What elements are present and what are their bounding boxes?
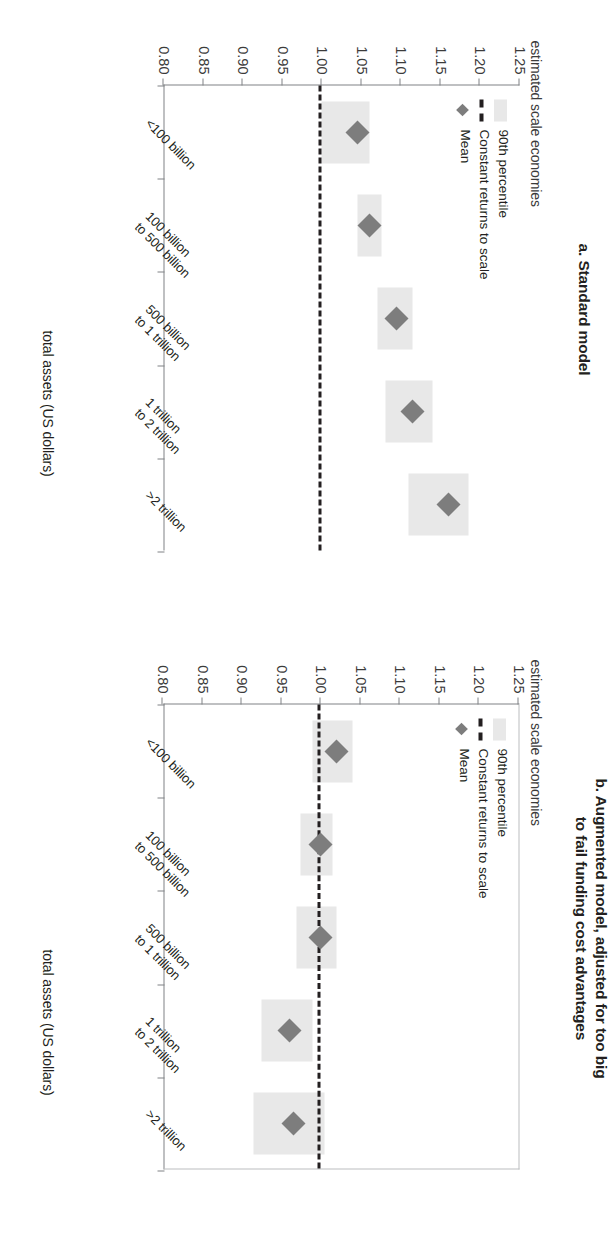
value-axis-tick	[478, 78, 479, 85]
category-axis-label: >2 trillion	[142, 1107, 189, 1154]
value-axis-tick	[439, 78, 440, 85]
value-axis-tick-label: 1.00	[312, 665, 328, 693]
category-axis-tick	[157, 551, 164, 552]
panel-a-title: a. Standard model	[573, 0, 593, 618]
legend-dashed-line-swatch	[479, 99, 483, 121]
legend-label-mean: Mean	[456, 748, 471, 782]
category-axis-label: 500 billionto 1 trillion	[131, 921, 193, 983]
value-axis-tick	[398, 697, 399, 704]
category-axis-label: >2 trillion	[142, 488, 189, 535]
value-axis-tick	[518, 78, 519, 85]
category-axis-tick	[157, 458, 164, 459]
panel-b-category-axis-title: total assets (US dollars)	[39, 949, 55, 1095]
value-axis-tick	[477, 697, 478, 704]
category-axis-tick	[157, 271, 164, 272]
category-axis-label: <100 billion	[142, 116, 198, 172]
category-axis-label: <100 billion	[142, 735, 198, 791]
legend-band-swatch	[494, 99, 507, 121]
category-axis-label: 1 trillionto 2 trillion	[131, 395, 193, 457]
value-axis-tick	[280, 697, 281, 704]
category-axis-tick	[157, 890, 164, 891]
value-axis-tick	[281, 78, 282, 85]
value-axis-tick	[399, 78, 400, 85]
value-axis-tick-label: 0.90	[233, 665, 249, 693]
value-axis-tick-label: 1.10	[391, 665, 407, 693]
value-axis-tick-label: 0.80	[155, 46, 171, 74]
value-axis-tick	[319, 697, 320, 704]
category-axis-tick	[157, 1077, 164, 1078]
category-axis-label: 1 trillionto 2 trillion	[131, 1014, 193, 1076]
panel-a-category-axis-title: total assets (US dollars)	[39, 330, 55, 476]
value-axis-tick-label: 1.25	[511, 46, 527, 74]
value-axis-tick-label: 0.85	[194, 665, 210, 693]
category-axis-tick	[157, 984, 164, 985]
category-axis-tick	[157, 1170, 164, 1171]
value-axis-tick-label: 1.25	[510, 665, 526, 693]
figure-stage: a. Standard model estimated scale econom…	[0, 0, 615, 1237]
value-axis-tick	[240, 697, 241, 704]
value-axis-tick	[359, 697, 360, 704]
value-axis-tick-label: 0.95	[273, 665, 289, 693]
legend-label-constant-returns: Constant returns to scale	[475, 748, 490, 898]
value-axis-tick	[162, 78, 163, 85]
legend-diamond-swatch	[456, 103, 469, 116]
value-axis-tick	[360, 78, 361, 85]
panel-b-title: b. Augmented model, adjusted for too big…	[570, 619, 610, 1237]
value-axis-tick	[161, 697, 162, 704]
value-axis-tick-label: 0.90	[234, 46, 250, 74]
value-axis-tick	[241, 78, 242, 85]
value-axis-tick-label: 0.85	[195, 46, 211, 74]
panel-b-plot-area: 1.251.201.151.101.051.000.950.900.850.80…	[163, 703, 519, 1169]
legend-dashed-line-swatch	[478, 718, 482, 740]
constant-returns-to-scale-line	[318, 85, 321, 550]
legend-label-90th-percentile: 90th percentile	[494, 748, 509, 837]
legend-label-mean: Mean	[457, 129, 472, 163]
value-axis-tick-label: 1.20	[470, 665, 486, 693]
value-axis-tick-label: 1.20	[471, 46, 487, 74]
value-axis-tick	[517, 697, 518, 704]
value-axis-tick	[438, 697, 439, 704]
panel-a-standard-model: a. Standard model estimated scale econom…	[0, 0, 615, 618]
legend-label-constant-returns: Constant returns to scale	[476, 129, 491, 279]
category-axis-label: 100 billionto 500 billion	[131, 209, 202, 280]
category-axis-tick	[157, 704, 164, 705]
category-axis-tick	[157, 85, 164, 86]
category-axis-tick	[157, 365, 164, 366]
legend-label-90th-percentile: 90th percentile	[495, 129, 510, 218]
category-axis-label: 100 billionto 500 billion	[131, 828, 202, 899]
value-axis-tick-label: 1.05	[352, 665, 368, 693]
panel-a-value-axis-label: estimated scale economies	[527, 40, 543, 206]
panel-b-value-axis-label: estimated scale economies	[527, 659, 543, 825]
value-axis-tick-label: 1.10	[392, 46, 408, 74]
value-axis-tick	[320, 78, 321, 85]
category-axis-tick	[157, 797, 164, 798]
panel-a-plot-area: 1.251.201.151.101.051.000.950.900.850.80…	[163, 84, 519, 550]
value-axis-tick-label: 0.80	[154, 665, 170, 693]
category-axis-label: 500 billionto 1 trillion	[131, 302, 193, 364]
category-axis-tick	[157, 178, 164, 179]
value-axis-tick-label: 1.00	[313, 46, 329, 74]
panel-b-augmented-model: b. Augmented model, adjusted for too big…	[0, 619, 615, 1237]
value-axis-tick	[201, 697, 202, 704]
legend-diamond-swatch	[455, 722, 468, 735]
value-axis-tick-label: 0.95	[274, 46, 290, 74]
value-axis-tick	[202, 78, 203, 85]
value-axis-tick-label: 1.05	[353, 46, 369, 74]
value-axis-tick-label: 1.15	[431, 665, 447, 693]
legend-band-swatch	[493, 718, 506, 740]
value-axis-tick-label: 1.15	[432, 46, 448, 74]
